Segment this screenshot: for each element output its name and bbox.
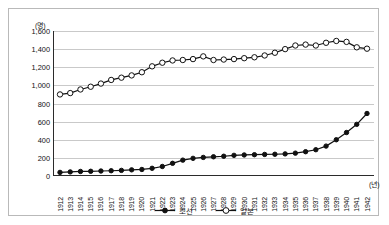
- open-circle-icon: [215, 206, 237, 215]
- legend-label: 일본: [240, 205, 254, 216]
- plot-axes: [53, 31, 374, 176]
- y-axis-tick: 400: [38, 135, 50, 144]
- legend-item: 일본: [215, 205, 254, 216]
- filled-circle-icon: [154, 206, 176, 215]
- y-axis-tick: 600: [38, 117, 50, 126]
- y-axis-tick: 1,200: [32, 63, 51, 72]
- y-axis-tick: 1,600: [32, 27, 51, 36]
- plot-area: [53, 31, 374, 176]
- chart-legend: 조선일본: [9, 205, 389, 216]
- legend-label: 조선: [179, 205, 193, 216]
- y-axis-tick: 0: [46, 172, 50, 181]
- y-axis-tick-labels: 02004006008001,0001,2001,4001,600: [9, 31, 50, 176]
- chart-frame: (명) (년) 02004006008001,0001,2001,4001,60…: [8, 8, 379, 216]
- y-axis-tick: 200: [38, 153, 50, 162]
- legend-item: 조선: [154, 205, 193, 216]
- y-axis-tick: 1,400: [32, 45, 51, 54]
- y-axis-tick: 800: [38, 99, 50, 108]
- y-axis-tick: 1,000: [32, 81, 51, 90]
